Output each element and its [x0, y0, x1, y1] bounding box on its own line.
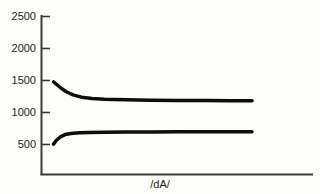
- y-axis-ticks: [42, 17, 50, 145]
- y-tick-label-2000: 2000: [0, 42, 36, 54]
- y-tick-label-500: 500: [0, 138, 36, 150]
- y-tick-label-1000: 1000: [0, 106, 36, 118]
- data-curve-lower-curve: [54, 132, 253, 145]
- chart-plot-area: [0, 0, 320, 194]
- data-curve-upper-curve: [54, 82, 253, 101]
- y-tick-label-1500: 1500: [0, 74, 36, 86]
- chart-figure: 2500 2000 1500 1000 500 /dA/: [0, 0, 320, 194]
- data-series-layer: [54, 82, 253, 144]
- x-axis-title: /dA/: [130, 178, 190, 190]
- y-tick-label-2500: 2500: [0, 10, 36, 22]
